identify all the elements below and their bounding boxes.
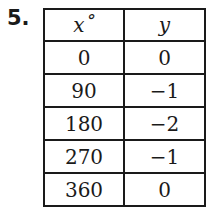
cell-x: 270 — [44, 140, 124, 173]
table-row: 90 −1 — [44, 74, 205, 107]
cell-x: 90 — [44, 74, 124, 107]
table-row: 270 −1 — [44, 140, 205, 173]
header-y: y — [124, 9, 205, 41]
header-x: x˚ — [44, 9, 124, 41]
problem-number: 5. — [7, 6, 30, 30]
cell-x: 360 — [44, 173, 124, 206]
table-header-row: x˚ y — [44, 9, 205, 41]
cell-y: −1 — [124, 140, 205, 173]
cell-y: −2 — [124, 107, 205, 140]
cell-y: 0 — [124, 41, 205, 74]
cell-y: 0 — [124, 173, 205, 206]
table-row: 0 0 — [44, 41, 205, 74]
values-table: x˚ y 0 0 90 −1 180 −2 270 −1 360 0 — [43, 8, 206, 207]
cell-y: −1 — [124, 74, 205, 107]
table-row: 180 −2 — [44, 107, 205, 140]
cell-x: 180 — [44, 107, 124, 140]
cell-x: 0 — [44, 41, 124, 74]
table-row: 360 0 — [44, 173, 205, 206]
